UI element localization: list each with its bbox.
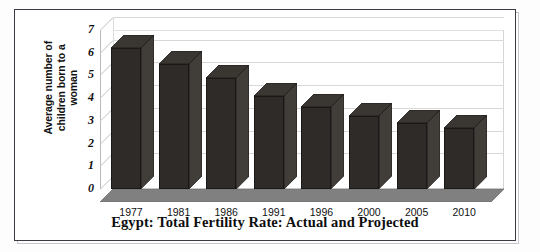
scanned-page: Average number of children born to a wom… [0,0,540,252]
bar-2010[interactable] [444,30,487,190]
y-axis-tick-label: 5 [76,67,94,82]
bar-front-face [397,123,427,189]
bar-side-3d [141,35,154,189]
bar-1977[interactable] [111,30,154,190]
bar-front-face [159,64,189,189]
bar-top-face [254,83,297,97]
plot-area: 01234567 1977198119861991199620002005201… [100,30,504,202]
bar-top-face [111,35,154,49]
bar-front-face [206,78,236,189]
bar-2000[interactable] [349,30,392,190]
y-axis-tick-mark [100,17,113,30]
bar-top-face [349,103,392,117]
y-axis-tick-label: 2 [76,136,94,151]
y-axis-tick-label: 1 [76,158,94,173]
bar-front-face [301,107,331,189]
bar-front-face [254,96,284,189]
bar-side-3d [189,51,202,189]
gridline [113,17,504,18]
bar-front-face [111,48,141,189]
bar-top-face [301,94,344,108]
y-axis-title: Average number of children born to a wom… [42,8,80,168]
bar-side-3d [284,83,297,189]
y-axis-title-line-2: children born to a [55,44,67,131]
y-axis-tick-label: 0 [76,181,94,196]
y-axis-title-line-1: Average number of [42,41,54,135]
chart-title: Egypt: Total Fertility Rate: Actual and … [14,214,516,231]
bar-top-face [397,110,440,124]
y-axis-tick-label: 7 [76,22,94,37]
bar-side-3d [331,94,344,189]
bar-side-3d [236,65,249,189]
bar-top-face [206,65,249,79]
y-axis-tick-label: 6 [76,45,94,60]
bar-1981[interactable] [159,30,202,190]
bar-front-face [349,116,379,189]
bar-top-face [159,51,202,65]
bar-1996[interactable] [301,30,344,190]
bar-1991[interactable] [254,30,297,190]
bar-top-face [444,115,487,129]
y-axis-tick-label: 4 [76,90,94,105]
bar-1986[interactable] [206,30,249,190]
y-axis-tick-label: 3 [76,113,94,128]
fertility-rate-bar-chart: Average number of children born to a wom… [14,9,516,241]
bar-2005[interactable] [397,30,440,190]
bar-front-face [444,128,474,189]
